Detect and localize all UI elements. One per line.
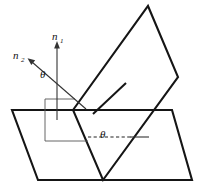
normal-2-label-group: n 2 (13, 49, 25, 64)
figure-container: n 1 n 2 θ θ (0, 0, 204, 191)
normal-1-subscript: 1 (60, 37, 64, 45)
normal-1-label-group: n 1 (52, 30, 64, 45)
plane-geometry-diagram: n 1 n 2 θ θ (0, 0, 204, 191)
horizontal-plane (12, 110, 192, 180)
theta-upper-label: θ (40, 68, 46, 80)
normal-2-subscript: 2 (21, 56, 25, 64)
theta-lower-label: θ (100, 128, 106, 140)
tilted-plane (73, 6, 178, 180)
normal-2-symbol: n (13, 49, 19, 61)
normal-1-symbol: n (52, 30, 58, 42)
